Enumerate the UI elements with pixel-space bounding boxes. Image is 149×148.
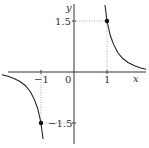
point-1-1.5 [105, 19, 109, 23]
point-neg1-neg1.5 [39, 121, 43, 125]
y-axis-label: y [65, 2, 72, 13]
x-tick-label-neg1: −1 [34, 74, 49, 85]
y-tick-label-15: 1.5 [55, 16, 71, 27]
origin-label: 0 [65, 74, 71, 85]
x-axis-label: x [133, 73, 139, 84]
y-tick-label-neg15: −1.5 [48, 118, 72, 129]
curve-right-branch [105, 5, 146, 69]
function-graph: y x 0 −1 1 1.5 −1.5 [0, 0, 149, 148]
x-tick-label-1: 1 [104, 74, 110, 85]
